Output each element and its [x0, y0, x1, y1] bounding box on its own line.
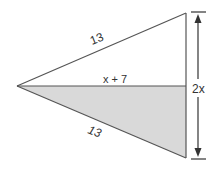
- label-altitude: x + 7: [103, 73, 127, 85]
- upper-side-line: [17, 13, 186, 86]
- triangle-diagram: 13 x + 7 2x 13: [0, 0, 215, 172]
- label-bottom-side: 13: [86, 123, 104, 141]
- arrow-head-up-icon: [195, 14, 202, 23]
- label-base: 2x: [192, 82, 205, 96]
- arrow-head-down-icon: [195, 148, 202, 157]
- label-top-side: 13: [88, 30, 106, 48]
